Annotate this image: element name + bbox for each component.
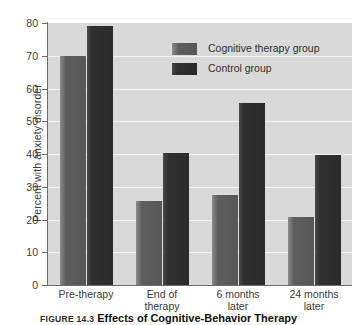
x-axis-line xyxy=(47,285,352,286)
y-axis-tick-mark xyxy=(42,154,47,155)
legend-label-control-group: Control group xyxy=(208,63,272,74)
x-axis-tick-label-line: therapy xyxy=(124,301,200,313)
y-axis-tick-label: 80 xyxy=(8,18,38,29)
y-axis-tick-mark xyxy=(42,56,47,57)
x-axis-tick-label-line: 24 months xyxy=(276,289,352,301)
y-axis-tick-label: 30 xyxy=(8,182,38,193)
legend: Cognitive therapy group Control group xyxy=(172,40,320,80)
legend-item-cognitive-therapy-group: Cognitive therapy group xyxy=(172,40,320,57)
y-axis-tick-label: 60 xyxy=(8,84,38,95)
x-axis-tick-label-line: later xyxy=(200,301,276,313)
y-axis-tick-label: 40 xyxy=(8,149,38,160)
figure-caption-title: Effects of Cognitive-Behavior Therapy xyxy=(97,312,297,324)
y-axis-tick-mark xyxy=(42,89,47,90)
legend-swatch-icon-cognitive-therapy-group xyxy=(172,43,197,55)
x-axis-tick-label-line: Pre-therapy xyxy=(48,289,124,301)
bar xyxy=(239,103,265,285)
y-axis-tick-label: 70 xyxy=(8,51,38,62)
x-axis-tick-label: Pre-therapy xyxy=(48,289,124,301)
y-axis-tick-label: 50 xyxy=(8,116,38,127)
y-axis-tick-label: 0 xyxy=(8,280,38,291)
bar xyxy=(87,26,113,285)
legend-label-cognitive-therapy-group: Cognitive therapy group xyxy=(208,43,320,54)
y-axis-tick-mark xyxy=(42,187,47,188)
y-axis-tick-mark xyxy=(42,252,47,253)
bar xyxy=(60,56,86,285)
bar xyxy=(288,217,314,285)
y-axis-tick-mark xyxy=(42,121,47,122)
legend-swatch-icon-control-group xyxy=(172,63,197,75)
y-axis-tick-mark xyxy=(42,285,47,286)
legend-item-control-group: Control group xyxy=(172,60,320,77)
bar xyxy=(136,201,162,285)
x-axis-tick-label: 24 monthslater xyxy=(276,289,352,312)
plot-area: Cognitive therapy group Control group xyxy=(48,23,352,285)
x-axis-tick-label-line: 6 months xyxy=(200,289,276,301)
y-axis-tick-mark xyxy=(42,23,47,24)
figure-caption-number: FIGURE 14.3 xyxy=(40,314,94,324)
y-axis-tick-label: 10 xyxy=(8,247,38,258)
y-axis-tick-mark xyxy=(42,220,47,221)
x-axis-tick-label-line: End of xyxy=(124,289,200,301)
bar xyxy=(315,155,341,285)
figure-caption: FIGURE 14.3 Effects of Cognitive-Behavio… xyxy=(40,312,358,325)
x-axis-tick-label: End oftherapy xyxy=(124,289,200,312)
bar xyxy=(163,153,189,285)
y-axis-tick-label: 20 xyxy=(8,215,38,226)
x-axis-tick-label-line: later xyxy=(276,301,352,313)
x-axis-tick-label: 6 monthslater xyxy=(200,289,276,312)
bar xyxy=(212,195,238,285)
